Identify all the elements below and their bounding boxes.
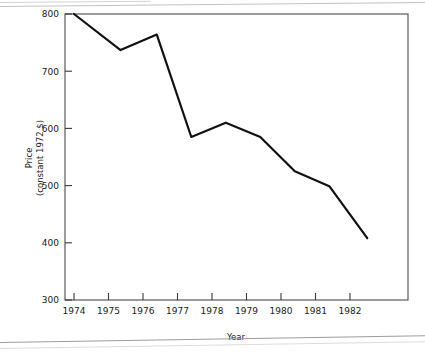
- x-axis-title: Year: [226, 332, 246, 342]
- data-series-line: [74, 14, 367, 238]
- y-tick-label: 800: [42, 9, 59, 19]
- plot-frame: [65, 14, 408, 300]
- x-tick-label: 1978: [201, 306, 224, 316]
- x-tick-label: 1980: [270, 306, 293, 316]
- x-tick-label: 1975: [97, 306, 120, 316]
- line-chart: Price (constant 1972 $) 3004005006007008…: [0, 0, 425, 352]
- y-axis-ticks: [65, 14, 72, 300]
- chart-svg: 300400500600700800 197419751976197719781…: [0, 0, 425, 352]
- y-tick-label: 500: [42, 181, 59, 191]
- x-tick-label: 1982: [339, 306, 362, 316]
- x-tick-label: 1974: [63, 306, 86, 316]
- y-tick-label: 700: [42, 67, 59, 77]
- x-axis-ticks: [74, 293, 350, 300]
- y-tick-label: 300: [42, 295, 59, 305]
- x-tick-label: 1981: [304, 306, 327, 316]
- x-tick-label: 1976: [132, 306, 155, 316]
- x-axis-tick-labels: 197419751976197719781979198019811982: [63, 306, 362, 316]
- x-tick-label: 1979: [235, 306, 258, 316]
- y-tick-label: 400: [42, 238, 59, 248]
- y-axis-tick-labels: 300400500600700800: [42, 9, 59, 305]
- page-canvas: Price (constant 1972 $) 3004005006007008…: [0, 0, 425, 352]
- y-tick-label: 600: [42, 124, 59, 134]
- x-tick-label: 1977: [166, 306, 189, 316]
